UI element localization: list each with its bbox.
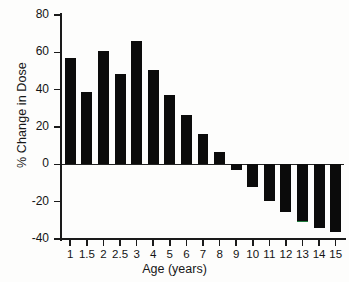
x-axis-tick (86, 240, 88, 246)
y-axis-tick-label: -40 (9, 231, 49, 245)
x-axis-tick-label: 11 (263, 248, 275, 260)
y-axis-tick (54, 201, 61, 203)
x-axis-tick (285, 240, 287, 246)
x-axis-tick (318, 240, 320, 246)
bar (280, 164, 291, 212)
y-axis-tick-label: 60 (9, 44, 49, 58)
x-axis-tick (152, 240, 154, 246)
bar (198, 134, 209, 164)
bar (297, 164, 308, 222)
x-axis-tick (69, 240, 71, 246)
bar (164, 95, 175, 164)
x-axis-tick-label: 13 (296, 248, 309, 260)
x-axis-tick-label: 9 (233, 248, 239, 260)
x-axis-tick-label: 10 (246, 248, 259, 260)
x-axis-tick-label: 4 (150, 248, 156, 260)
y-axis-tick (54, 14, 61, 16)
x-axis-tick (202, 240, 204, 246)
y-axis-tick-label: 40 (9, 82, 49, 96)
y-axis-tick (54, 164, 61, 166)
x-axis-tick-label: 7 (200, 248, 206, 260)
bar (181, 115, 192, 164)
bar (314, 164, 325, 227)
y-axis-tick-label: 20 (9, 119, 49, 133)
x-axis-tick (219, 240, 221, 246)
x-axis-tick-label: 8 (216, 248, 222, 260)
x-axis-tick-label: 2.5 (112, 248, 128, 260)
x-axis-tick-label: 1 (67, 248, 73, 260)
bar (148, 70, 159, 164)
bar (65, 58, 76, 164)
y-axis-tick-label: 0 (9, 156, 49, 170)
x-axis-tick (103, 240, 105, 246)
y-axis-tick (54, 52, 61, 54)
x-axis-tick (335, 240, 337, 246)
x-axis-tick (302, 240, 304, 246)
bar (131, 41, 142, 164)
x-axis-tick-label: 2 (100, 248, 106, 260)
bar (231, 164, 242, 170)
bar (214, 152, 225, 164)
x-axis-tick-label: 5 (167, 248, 173, 260)
x-axis-tick-label: 15 (329, 248, 342, 260)
y-axis-tick-label: -20 (9, 194, 49, 208)
x-axis-tick (136, 240, 138, 246)
x-axis-tick-label: 3 (133, 248, 139, 260)
x-axis-title: Age (years) (0, 262, 349, 276)
bar (81, 92, 92, 165)
bar (115, 74, 126, 165)
bar-chart-figure: % Change in Dose 806040200-20-40 11.522.… (0, 0, 349, 282)
x-axis-tick-label: 6 (183, 248, 189, 260)
y-axis-tick (54, 89, 61, 91)
x-axis-tick-label: 12 (280, 248, 293, 260)
x-axis-tick (186, 240, 188, 246)
bar (98, 51, 109, 164)
x-axis-tick (235, 240, 237, 246)
x-axis-tick (119, 240, 121, 246)
y-axis-tick (54, 238, 61, 240)
y-axis-tick-label: 80 (9, 7, 49, 21)
x-axis-tick (252, 240, 254, 246)
x-axis-tick (169, 240, 171, 246)
x-axis-tick-label: 1.5 (79, 248, 95, 260)
bar (247, 164, 258, 186)
bar (330, 164, 341, 231)
x-axis-tick-label: 14 (313, 248, 326, 260)
y-axis-tick (54, 126, 61, 128)
bar (264, 164, 275, 200)
x-axis-tick (269, 240, 271, 246)
